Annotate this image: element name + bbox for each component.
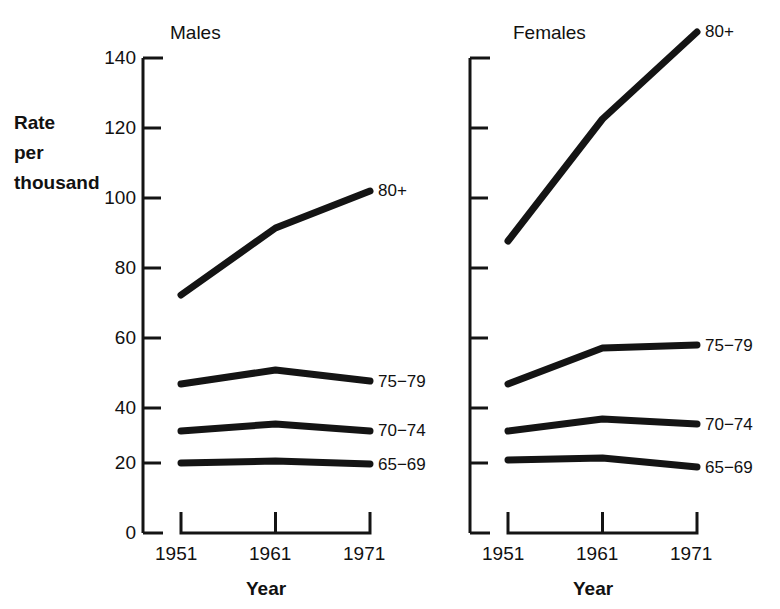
chart-canvas [0, 0, 780, 609]
males-series-line-70-74 [181, 424, 370, 431]
females-x-tick-label-1971: 1971 [670, 543, 712, 565]
females-x-axis-title: Year [573, 578, 613, 600]
females-series-label-75-79: 75−79 [705, 336, 753, 356]
males-series-label-70-74: 70−74 [378, 421, 426, 441]
males-panel [143, 58, 370, 533]
chart-figure: Rate per thousand 140 120 100 80 60 40 2… [0, 0, 780, 609]
females-series-label-65-69: 65−69 [705, 458, 753, 478]
females-x-tick-label-1951: 1951 [482, 543, 524, 565]
females-series-line-80plus [508, 32, 697, 241]
females-series-line-75-79 [508, 345, 697, 384]
females-series-line-70-74 [508, 419, 697, 431]
males-x-axis-title: Year [246, 578, 286, 600]
males-series-label-75-79: 75−79 [378, 372, 426, 392]
males-x-tick-label-1961: 1961 [249, 543, 291, 565]
males-series-line-65-69 [181, 461, 370, 464]
males-series-line-75-79 [181, 370, 370, 384]
females-series-label-70-74: 70−74 [705, 415, 753, 435]
males-x-tick-label-1951: 1951 [155, 543, 197, 565]
females-x-tick-label-1961: 1961 [576, 543, 618, 565]
males-x-tick-label-1971: 1971 [343, 543, 385, 565]
males-series-label-80plus: 80+ [378, 181, 407, 201]
males-series-line-80plus [181, 191, 370, 295]
females-series-line-65-69 [508, 458, 697, 467]
females-series-label-80plus: 80+ [705, 22, 734, 42]
females-panel [470, 32, 697, 533]
males-series-label-65-69: 65−69 [378, 455, 426, 475]
